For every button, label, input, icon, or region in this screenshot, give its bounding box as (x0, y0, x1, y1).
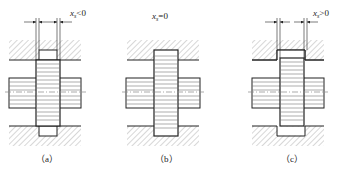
shift-label-b: xs=0 (151, 11, 168, 22)
caption-a: （a） (36, 154, 58, 164)
diagram-canvas: xs<0 （a） xs=0 （b） (0, 0, 338, 171)
panel-b: xs=0 （b） (122, 11, 204, 164)
shift-label-c: xs>0 (312, 8, 329, 19)
panel-c: xs>0 （c） (248, 8, 329, 164)
gear-body (154, 50, 178, 136)
shift-label-a: xs<0 (69, 8, 86, 19)
panel-a: xs<0 （a） (5, 8, 86, 164)
caption-c: （c） (281, 154, 303, 164)
caption-b: （b） (155, 154, 178, 164)
groove-bottom (39, 126, 57, 136)
groove-top (39, 50, 57, 60)
groove-bottom (278, 127, 305, 136)
